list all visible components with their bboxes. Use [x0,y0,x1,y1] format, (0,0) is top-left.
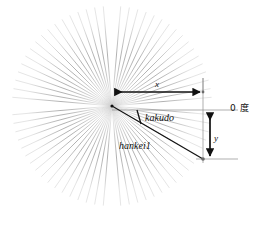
radial-ray [113,72,206,106]
radial-ray [113,107,162,192]
radial-ray [78,12,112,105]
radial-ray [78,107,112,200]
radial-ray [18,72,111,106]
radial-ray [18,107,111,141]
center-point [110,104,113,107]
radius-endpoint-point [201,157,205,161]
radial-ray [112,8,129,105]
radial-ray [113,56,198,105]
radial-ray [113,107,147,200]
radial-ray [41,107,111,177]
figure-canvas: x y kakudo hankei1 0 度 [0,0,257,226]
radial-ray [112,107,129,204]
radial-ray [62,107,111,192]
radial-ray [95,8,112,105]
radial-ray [25,107,110,156]
radial-ray [95,107,112,204]
radial-ray [14,89,111,106]
radial-ray [113,107,206,141]
diagram-svg [0,0,257,226]
radial-ray [113,107,183,177]
radial-ray [41,35,111,105]
radial-ray [113,35,183,105]
vertical-guide-top-point [202,91,205,94]
radial-ray [62,19,111,104]
radial-ray [113,12,147,105]
radial-ray [14,106,111,123]
radial-ray [25,56,110,105]
